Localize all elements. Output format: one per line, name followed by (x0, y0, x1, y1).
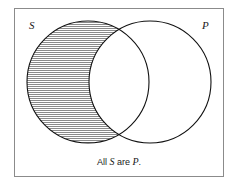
caption-mid: are (114, 157, 132, 167)
diagram-caption: All S are P. (14, 156, 224, 168)
set-label-p: P (202, 20, 209, 31)
venn-diagram-figure: S P All S are P. (0, 0, 239, 187)
caption-lead: All (97, 157, 110, 167)
caption-tail: . (139, 157, 142, 167)
set-label-s: S (29, 20, 35, 31)
